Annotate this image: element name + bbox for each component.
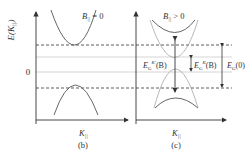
panel-c-condition-label: B|| > 0: [163, 11, 185, 22]
band-diagram: E(K||) 0 B|| = 0 K|| (b): [0, 0, 250, 155]
panel-c-k-valence-band: [154, 69, 198, 108]
svg-text:E(K||): E(K||): [6, 20, 17, 42]
panel-c-caption: (c): [171, 140, 181, 150]
panel-b-caption: (b): [78, 140, 88, 150]
panel-c-kprime-conduction-band: [152, 20, 195, 33]
panel-b-condition-label: B|| = 0: [82, 11, 104, 22]
panel-c-kprime-valence-band: [155, 98, 198, 108]
y-axis-label: E(K||): [6, 20, 17, 42]
panel-b-valence-band: [54, 85, 98, 115]
panel-c-k-conduction-band: [150, 20, 198, 58]
zero-field-gap-label: EG(0): [226, 61, 245, 71]
panel-c: B|| > 0 EGK'(B) EGK(B) EG(0) K|| (c): [136, 11, 245, 150]
zero-tick-label: 0: [26, 67, 31, 77]
panel-b-x-axis-label: K||: [78, 128, 88, 139]
panel-c-x-axis-label: K||: [171, 128, 181, 139]
k-gap-label: EGK(B): [193, 60, 217, 71]
kprime-gap-label: EGK'(B): [142, 60, 167, 71]
panel-b: B|| = 0 K|| (b): [36, 10, 128, 150]
